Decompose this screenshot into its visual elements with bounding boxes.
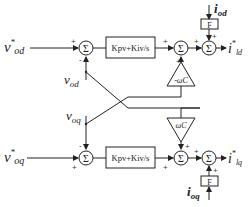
svg-text:Kpv+Kiv/s: Kpv+Kiv/s bbox=[112, 43, 150, 53]
svg-text:F: F bbox=[207, 178, 212, 187]
d-feedforward-summing-junction: Σ bbox=[202, 41, 216, 55]
v-oq-feedback-label: voq bbox=[66, 108, 81, 125]
sum3-d-plus-top: + bbox=[212, 32, 217, 41]
sum1-q-minus-sign: - bbox=[79, 141, 82, 150]
svg-text:F: F bbox=[207, 21, 212, 30]
d-error-summing-junction: Σ bbox=[79, 41, 93, 55]
q-axis-loop: v*oq + Σ - voq Kpv+Kiv/s + Σ + ωC + bbox=[4, 108, 242, 201]
sum3-q-plus-bottom: + bbox=[213, 166, 218, 175]
q-error-summing-junction: Σ bbox=[79, 151, 93, 165]
i-ld-ref-label: i*ld bbox=[228, 39, 243, 57]
sum1-d-minus-sign: - bbox=[79, 55, 82, 64]
svg-text:-ωC: -ωC bbox=[174, 76, 188, 85]
sum2-d-plus-left: + bbox=[163, 37, 168, 46]
v-od-feedback-label: vod bbox=[64, 72, 79, 89]
q-feedforward-summing-junction: Σ bbox=[202, 151, 216, 165]
sum2-q-plus-top: + bbox=[185, 142, 190, 151]
d-decoupling-summing-junction: Σ bbox=[174, 41, 188, 55]
voltage-controller-diagram: v*od + Σ - vod Kpv+Kiv/s + Σ + -ω bbox=[0, 0, 249, 207]
i-oq-label: ioq bbox=[187, 184, 200, 201]
d-feedforward-gain-block: F bbox=[201, 19, 218, 30]
d-cross-coupling-gain: -ωC bbox=[167, 62, 195, 86]
q-feedforward-gain-block: F bbox=[201, 176, 218, 187]
svg-text:Kpv+Kiv/s: Kpv+Kiv/s bbox=[112, 153, 150, 163]
svg-text:Σ: Σ bbox=[206, 43, 212, 54]
svg-text:Σ: Σ bbox=[178, 43, 184, 54]
svg-text:Σ: Σ bbox=[83, 153, 89, 164]
d-pi-controller-block: Kpv+Kiv/s bbox=[106, 37, 155, 58]
q-pi-controller-block: Kpv+Kiv/s bbox=[106, 147, 155, 168]
i-lq-ref-label: i*lq bbox=[228, 149, 242, 167]
svg-text:ωC: ωC bbox=[176, 121, 188, 130]
i-od-label: iod bbox=[214, 1, 227, 18]
v-od-ref-label: v*od bbox=[4, 37, 25, 56]
sum1-q-plus-sign: + bbox=[72, 163, 77, 172]
svg-text:Σ: Σ bbox=[83, 43, 89, 54]
sum1-d-plus-sign: + bbox=[71, 37, 76, 46]
v-oq-ref-label: v*oq bbox=[4, 147, 24, 166]
sum2-q-plus-left: + bbox=[163, 163, 168, 172]
d-axis-loop: v*od + Σ - vod Kpv+Kiv/s + Σ + -ω bbox=[4, 1, 243, 89]
sum3-q-plus-left: + bbox=[194, 147, 199, 156]
svg-text:Σ: Σ bbox=[178, 153, 184, 164]
q-cross-coupling-gain: ωC bbox=[167, 118, 195, 142]
q-decoupling-summing-junction: Σ bbox=[174, 151, 188, 165]
sum3-d-plus-left: + bbox=[194, 37, 199, 46]
svg-text:Σ: Σ bbox=[206, 153, 212, 164]
